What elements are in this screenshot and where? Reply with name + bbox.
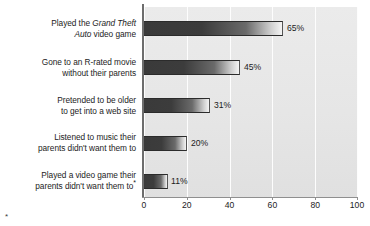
category-label-1: Gone to an R-rated movie without their p… [0, 57, 136, 78]
category-label-0-line2: Auto video game [74, 29, 136, 39]
bar-1 [144, 60, 240, 75]
category-label-2: Pretended to be older to get into a web … [0, 95, 136, 116]
y-axis-line [142, 4, 144, 198]
category-label-3-line2: parents didn't want them to [38, 143, 136, 153]
footnote-marker-superscript: * [133, 179, 136, 186]
bar-value-4: 11% [171, 176, 188, 187]
bar-value-2: 31% [214, 100, 231, 111]
x-axis-line [142, 197, 358, 198]
footnote-symbol: * [5, 212, 8, 221]
category-label-column: Played the Grand Theft Auto video game G… [0, 0, 140, 198]
category-label-0: Played the Grand Theft Auto video game [0, 18, 136, 39]
x-tick-label-100: 100 [342, 200, 370, 211]
x-tick-label-20: 20 [172, 200, 202, 211]
bar-value-1: 45% [244, 62, 261, 73]
x-tick-label-0: 0 [129, 200, 159, 211]
bar-0 [144, 21, 283, 36]
category-label-2-line1: Pretended to be older [57, 95, 136, 105]
gridline-100 [357, 7, 358, 198]
plot-area [144, 7, 358, 198]
bar-value-3: 20% [191, 138, 208, 149]
category-label-2-line2: to get into a web site [61, 106, 136, 116]
bar-chart: Played the Grand Theft Auto video game G… [0, 0, 370, 226]
category-label-3-line1: Listened to music their [54, 132, 136, 142]
gridline-80 [315, 7, 316, 198]
bar-3 [144, 136, 187, 151]
category-label-4: Played a video game their parents didn't… [0, 170, 136, 191]
category-label-4-line2: parents didn't want them to [35, 181, 133, 191]
category-label-1-line1: Gone to an R-rated movie [42, 57, 136, 67]
bar-value-0: 65% [287, 23, 304, 34]
x-tick-label-60: 60 [257, 200, 287, 211]
bar-4 [144, 174, 168, 189]
x-tick-label-80: 80 [300, 200, 330, 211]
category-label-1-line2: without their parents [62, 68, 136, 78]
category-label-0-line1: Played the Grand Theft [51, 18, 136, 28]
x-tick-label-40: 40 [215, 200, 245, 211]
category-label-4-line1: Played a video game their [41, 170, 136, 180]
bar-2 [144, 98, 210, 113]
category-label-3: Listened to music their parents didn't w… [0, 132, 136, 153]
